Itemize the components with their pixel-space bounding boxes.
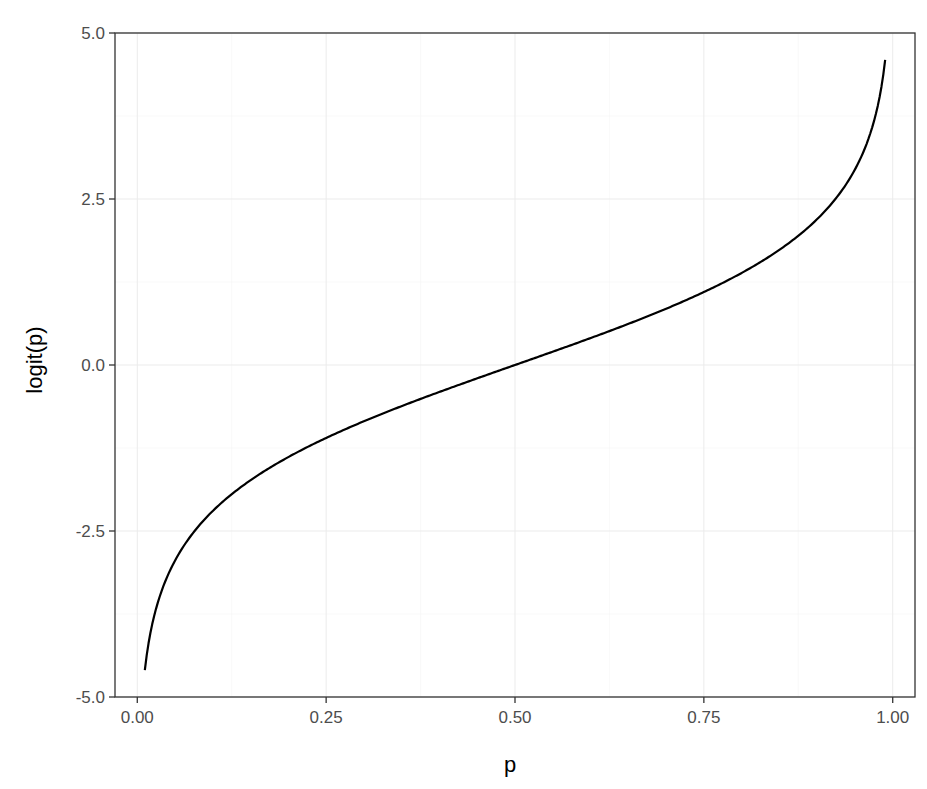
x-axis: 0.000.250.500.751.00: [121, 697, 910, 727]
y-tick: -5.0: [76, 688, 115, 707]
x-tick: 0.00: [121, 697, 154, 727]
y-tick-label: -5.0: [76, 688, 105, 707]
x-tick-label: 0.25: [310, 708, 343, 727]
x-tick: 0.50: [498, 697, 531, 727]
plot-panel: [115, 33, 915, 697]
y-tick: 5.0: [81, 24, 115, 43]
logit-chart: 0.000.250.500.751.00 -5.0-2.50.02.55.0 p…: [0, 0, 927, 789]
y-tick: 0.0: [81, 356, 115, 375]
y-tick: 2.5: [81, 190, 115, 209]
x-axis-title: p: [504, 752, 516, 777]
y-tick: -2.5: [76, 522, 115, 541]
x-tick-label: 1.00: [876, 708, 909, 727]
y-tick-label: 0.0: [81, 356, 105, 375]
x-tick-label: 0.00: [121, 708, 154, 727]
x-tick-label: 0.50: [498, 708, 531, 727]
x-tick-label: 0.75: [687, 708, 720, 727]
y-axis-title: logit(p): [22, 326, 47, 393]
y-tick-label: 5.0: [81, 24, 105, 43]
y-axis: -5.0-2.50.02.55.0: [76, 24, 115, 707]
x-tick: 0.25: [310, 697, 343, 727]
y-tick-label: 2.5: [81, 190, 105, 209]
y-tick-label: -2.5: [76, 522, 105, 541]
x-tick: 0.75: [687, 697, 720, 727]
x-tick: 1.00: [876, 697, 909, 727]
